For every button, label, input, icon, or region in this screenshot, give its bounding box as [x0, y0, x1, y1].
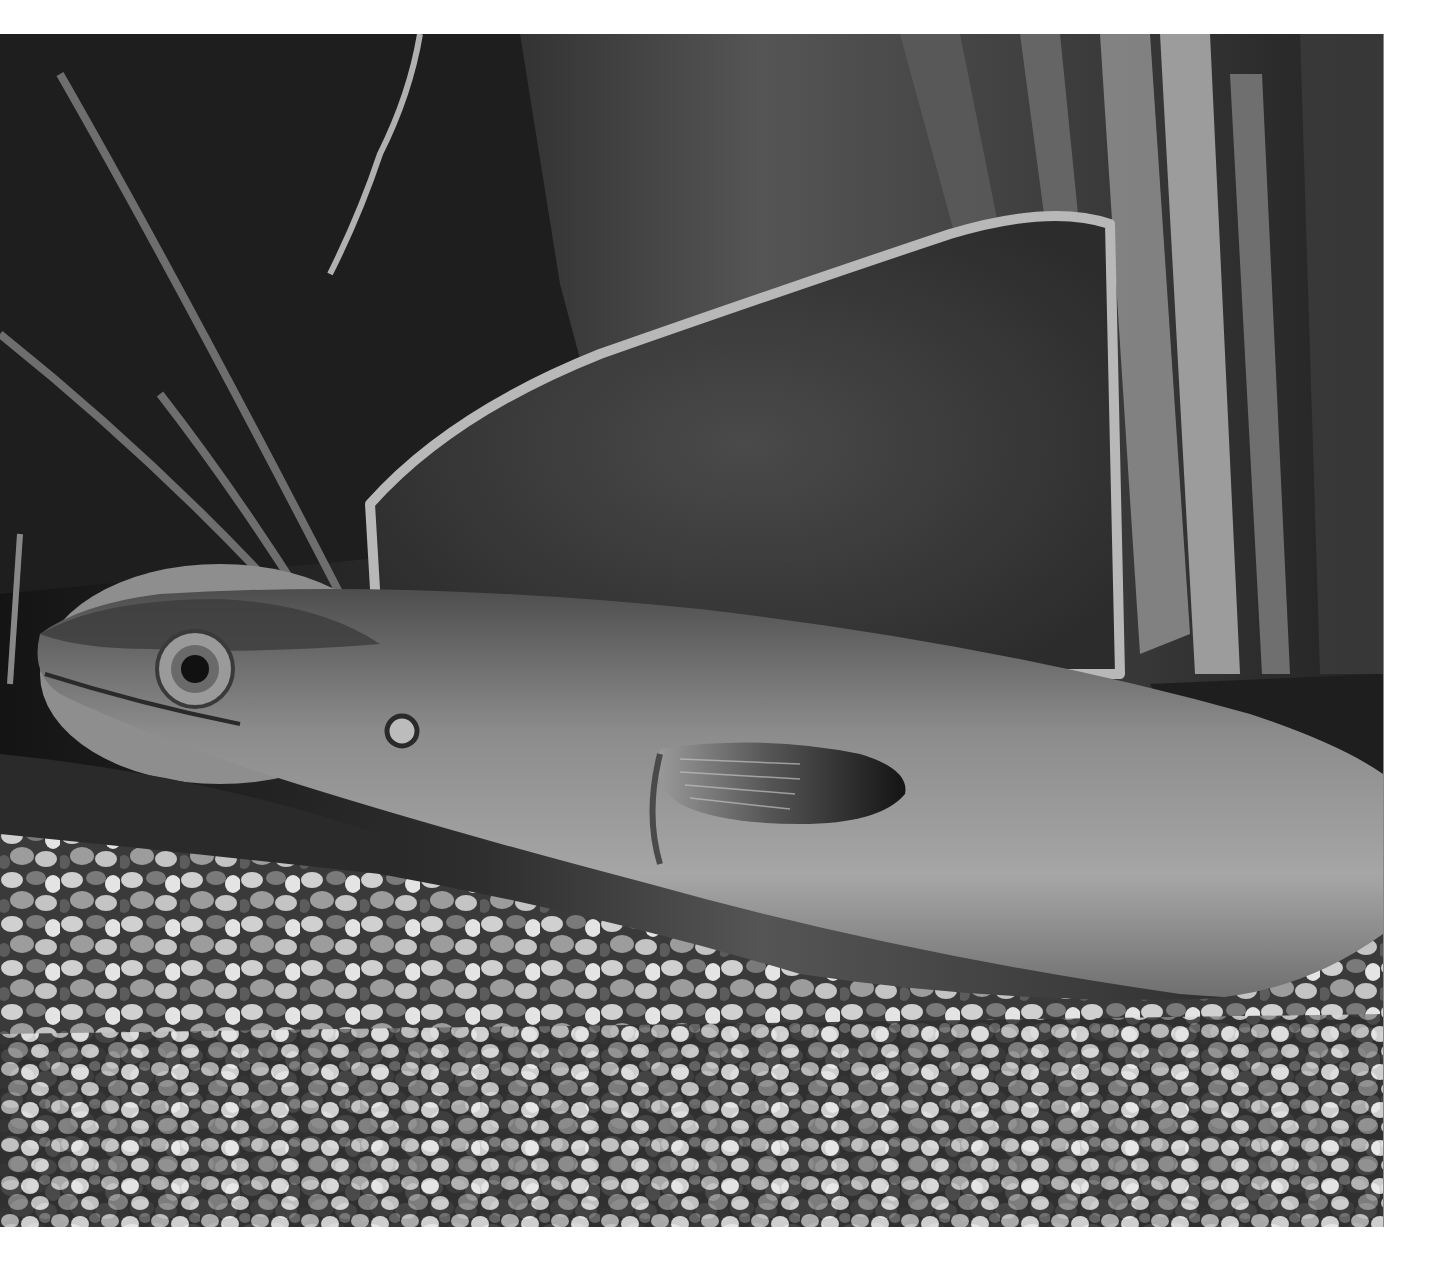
- gravel-foreground: [0, 1014, 1383, 1227]
- eel-photograph: [0, 34, 1384, 1227]
- photo-illustration: [0, 34, 1383, 1227]
- eel-eye: [157, 631, 233, 707]
- gill-pore: [387, 716, 417, 746]
